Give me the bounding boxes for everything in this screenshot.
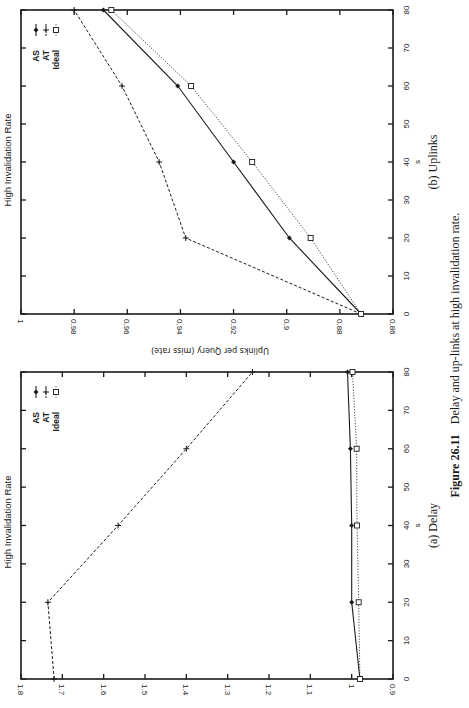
chart-title: High Invalidation Rate [2,114,13,207]
plus-marker [51,676,57,682]
diamond-marker [34,28,39,33]
y-tick-label: 0.88 [335,319,344,335]
y-tick-label: 0.9 [388,684,397,696]
x-tick-label: 80 [402,367,411,376]
x-tick-label: 10 [402,271,411,280]
x-tick-label: 40 [402,157,411,166]
x-tick-label: 0 [402,676,411,681]
figure-caption-text: Delay and up-links at high invalidation … [448,213,462,425]
plus-marker [43,27,49,33]
x-axis-label: s [413,160,422,164]
y-tick-label: 1 [16,319,25,324]
svg-text:Figure 26.11Delay and up-links: Figure 26.11Delay and up-links at high i… [448,213,462,498]
plus-marker [115,523,121,529]
y-tick-label: 1.6 [99,684,108,696]
legend-label-as: AS [31,412,41,424]
y-tick-label: 1.7 [57,684,66,696]
x-tick-label: 0 [402,311,411,316]
x-tick-label: 50 [402,482,411,491]
square-marker [54,390,59,395]
x-tick-label: 60 [402,444,411,453]
y-tick-label: 0.92 [229,319,238,335]
legend-label-at: AT [41,411,51,423]
y-tick-label: 0.86 [388,319,397,335]
diamond-marker [349,600,354,605]
x-tick-label: 10 [402,636,411,645]
square-marker [355,523,360,528]
y-axis-label: Uplinks per Query (miss rate) [151,346,269,355]
y-tick-label: 1 [347,684,356,689]
subcaption: (b) Uplinks [426,134,440,189]
plot-frame [21,372,393,679]
plus-marker [71,7,77,13]
y-tick-label: 1.2 [264,684,273,696]
plot-frame [21,10,393,314]
y-tick-label: 0.96 [122,319,131,335]
x-tick-label: 30 [402,195,411,204]
y-tick-label: 0.98 [69,319,78,335]
figure-number: Figure 26.11 [448,434,462,497]
plus-marker [43,389,49,395]
x-tick-label: 40 [402,521,411,530]
plus-marker [183,235,189,241]
uplinks-chart: 01020304050607080s(b) Uplinks0.860.880.9… [2,5,440,355]
subcaption: (a) Delay [426,503,440,548]
x-tick-label: 30 [402,559,411,568]
legend: ASATIdeal [31,24,61,69]
y-tick-label: 0.94 [175,319,184,335]
y-tick-label: 1.3 [223,684,232,696]
chart-title: High Invalidation Rate [2,476,13,569]
series-at [45,369,256,682]
y-tick-label: 0.9 [282,319,291,331]
square-marker [54,28,59,33]
diamond-marker [349,523,354,528]
square-marker [109,8,114,13]
plus-marker [45,599,51,605]
square-marker [357,677,362,682]
y-tick-label: 1.8 [16,684,25,696]
x-tick-label: 80 [402,5,411,14]
diamond-marker [348,446,353,451]
square-marker [350,370,355,375]
square-marker [359,312,364,317]
line-at [48,372,253,679]
y-tick-label: 1.4 [181,684,190,696]
x-tick-label: 70 [402,43,411,52]
x-tick-label: 70 [402,405,411,414]
x-tick-label: 20 [402,597,411,606]
y-tick-label: 1.1 [305,684,314,696]
square-marker [189,84,194,89]
x-tick-label: 50 [402,119,411,128]
x-tick-label: 20 [402,233,411,242]
series-as [101,8,364,317]
legend-label-ideal: Ideal [51,412,61,431]
delay-chart: 01020304050607080s(a) Delay0.911.11.21.3… [2,367,440,696]
x-tick-label: 60 [402,81,411,90]
square-marker [354,446,359,451]
square-marker [308,236,313,241]
plus-marker [119,83,125,89]
plus-marker [156,159,162,165]
legend-label-ideal: Ideal [51,50,61,69]
figure-caption: Figure 26.11Delay and up-links at high i… [448,213,462,498]
x-axis-label: s [413,524,422,528]
y-tick-label: 1.5 [140,684,149,696]
legend-label-as: AS [31,50,41,62]
square-marker [250,160,255,165]
figure-canvas: 01020304050607080s(b) Uplinks0.860.880.9… [0,0,469,708]
legend: ASATIdeal [31,386,61,431]
diamond-marker [34,390,39,395]
diamond-marker [345,370,350,375]
square-marker [356,600,361,605]
legend-label-at: AT [41,49,51,61]
